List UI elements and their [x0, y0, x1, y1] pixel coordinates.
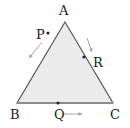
- point-label-r: R: [93, 56, 103, 69]
- point-label-q: Q: [54, 108, 65, 121]
- vertex-label-c: C: [110, 108, 120, 121]
- point-label-p: P: [36, 28, 45, 41]
- vertex-label-a: A: [59, 4, 68, 17]
- arrow-r-direction: [87, 38, 92, 52]
- point-dot-r: [82, 55, 85, 58]
- geometry-figure: A B C P Q R: [0, 0, 130, 128]
- point-dot-p: [46, 31, 49, 34]
- vertex-label-b: B: [10, 108, 20, 121]
- point-dot-q: [56, 101, 59, 104]
- arrow-p-direction: [29, 42, 42, 58]
